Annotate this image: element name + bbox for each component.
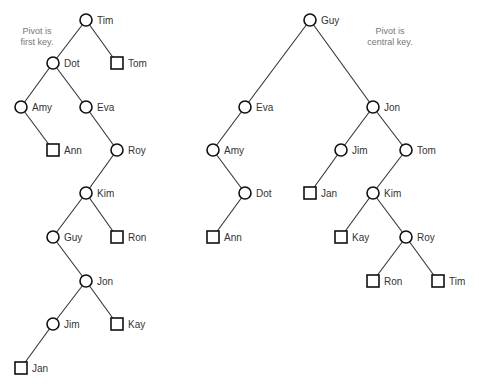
circle-node-icon bbox=[400, 144, 412, 156]
internal-node-eva: Eva bbox=[239, 101, 274, 113]
node-label: Amy bbox=[32, 102, 52, 113]
node-label: Jan bbox=[32, 363, 48, 374]
node-label: Ron bbox=[384, 276, 402, 287]
square-leaf-icon bbox=[367, 275, 379, 287]
circle-node-icon bbox=[239, 187, 251, 199]
node-label: Guy bbox=[64, 232, 82, 243]
node-label: Dot bbox=[64, 58, 80, 69]
pivot-annotation: Pivot isfirst key. bbox=[21, 26, 54, 47]
circle-node-icon bbox=[111, 144, 123, 156]
node-label: Jon bbox=[384, 102, 400, 113]
node-label: Jim bbox=[64, 319, 80, 330]
edge-amy-dot bbox=[213, 150, 245, 193]
square-leaf-icon bbox=[111, 57, 123, 69]
circle-node-icon bbox=[80, 14, 92, 26]
circle-node-icon bbox=[47, 318, 59, 330]
internal-node-eva: Eva bbox=[80, 101, 115, 113]
leaf-node-ann: Ann bbox=[47, 144, 82, 156]
circle-node-icon bbox=[239, 101, 251, 113]
node-label: Kay bbox=[352, 232, 369, 243]
internal-node-jon: Jon bbox=[80, 275, 113, 287]
node-label: Kay bbox=[128, 319, 145, 330]
edge-dot-eva bbox=[53, 63, 86, 107]
circle-node-icon bbox=[367, 101, 379, 113]
circle-node-icon bbox=[304, 14, 316, 26]
node-label: Tim bbox=[449, 276, 465, 287]
edge-kim-guy bbox=[53, 193, 86, 237]
node-label: Dot bbox=[256, 188, 272, 199]
annotation-line: first key. bbox=[21, 37, 54, 47]
leaf-node-kay: Kay bbox=[111, 318, 145, 330]
leaf-node-tim: Tim bbox=[432, 275, 465, 287]
leaf-node-jan: Jan bbox=[304, 187, 337, 199]
node-label: Eva bbox=[97, 102, 115, 113]
square-leaf-icon bbox=[304, 187, 316, 199]
pivot-annotation: Pivot iscentral key. bbox=[367, 26, 412, 47]
node-label: Jim bbox=[352, 145, 368, 156]
internal-node-dot: Dot bbox=[239, 187, 272, 199]
node-label: Jan bbox=[321, 188, 337, 199]
square-leaf-icon bbox=[207, 231, 219, 243]
circle-node-icon bbox=[80, 101, 92, 113]
circle-node-icon bbox=[400, 231, 412, 243]
internal-node-guy: Guy bbox=[304, 14, 339, 26]
circle-node-icon bbox=[47, 231, 59, 243]
leaf-node-tom: Tom bbox=[111, 57, 147, 69]
square-leaf-icon bbox=[111, 231, 123, 243]
node-label: Tom bbox=[417, 145, 436, 156]
annotation-line: central key. bbox=[367, 37, 412, 47]
circle-node-icon bbox=[80, 187, 92, 199]
edge-kim-roy bbox=[373, 193, 406, 237]
leaf-node-kay: Kay bbox=[335, 231, 369, 243]
first-key-tree: TimDotTomAmyEvaAnnRoyKimGuyRonJonJimKayJ… bbox=[15, 14, 147, 374]
internal-node-guy: Guy bbox=[47, 231, 82, 243]
leaf-node-ron: Ron bbox=[111, 231, 146, 243]
node-label: Guy bbox=[321, 15, 339, 26]
internal-node-dot: Dot bbox=[47, 57, 80, 69]
internal-node-amy: Amy bbox=[207, 144, 244, 156]
annotation-line: Pivot is bbox=[375, 26, 405, 36]
leaf-node-ann: Ann bbox=[207, 231, 242, 243]
edge-jon-tom bbox=[373, 107, 406, 150]
square-leaf-icon bbox=[15, 362, 27, 374]
circle-node-icon bbox=[47, 57, 59, 69]
internal-node-roy: Roy bbox=[400, 231, 435, 243]
node-label: Roy bbox=[128, 145, 146, 156]
edge-guy-eva bbox=[245, 20, 310, 107]
circle-node-icon bbox=[335, 144, 347, 156]
circle-node-icon bbox=[367, 187, 379, 199]
node-label: Tom bbox=[128, 58, 147, 69]
node-label: Ann bbox=[224, 232, 242, 243]
circle-node-icon bbox=[80, 275, 92, 287]
central-key-tree: GuyEvaJonAmyJimTomDotJanKimAnnKayRoyRonT… bbox=[207, 14, 465, 287]
internal-node-jim: Jim bbox=[47, 318, 80, 330]
node-label: Jon bbox=[97, 276, 113, 287]
annotation-line: Pivot is bbox=[22, 26, 52, 36]
node-label: Roy bbox=[417, 232, 435, 243]
node-label: Ron bbox=[128, 232, 146, 243]
internal-node-tom: Tom bbox=[400, 144, 436, 156]
edge-guy-jon bbox=[310, 20, 373, 107]
square-leaf-icon bbox=[47, 144, 59, 156]
internal-node-kim: Kim bbox=[80, 187, 114, 199]
circle-node-icon bbox=[207, 144, 219, 156]
internal-node-amy: Amy bbox=[15, 101, 52, 113]
node-label: Kim bbox=[384, 188, 401, 199]
leaf-node-ron: Ron bbox=[367, 275, 402, 287]
node-label: Ann bbox=[64, 145, 82, 156]
leaf-node-jan: Jan bbox=[15, 362, 48, 374]
square-leaf-icon bbox=[432, 275, 444, 287]
edge-eva-roy bbox=[86, 107, 117, 150]
bst-diagram: TimDotTomAmyEvaAnnRoyKimGuyRonJonJimKayJ… bbox=[0, 0, 479, 391]
edge-dot-amy bbox=[21, 63, 53, 107]
square-leaf-icon bbox=[111, 318, 123, 330]
internal-node-roy: Roy bbox=[111, 144, 146, 156]
node-label: Amy bbox=[224, 145, 244, 156]
node-label: Tim bbox=[97, 15, 113, 26]
internal-node-tim: Tim bbox=[80, 14, 113, 26]
internal-node-jim: Jim bbox=[335, 144, 368, 156]
internal-node-jon: Jon bbox=[367, 101, 400, 113]
square-leaf-icon bbox=[335, 231, 347, 243]
internal-node-kim: Kim bbox=[367, 187, 401, 199]
node-label: Eva bbox=[256, 102, 274, 113]
